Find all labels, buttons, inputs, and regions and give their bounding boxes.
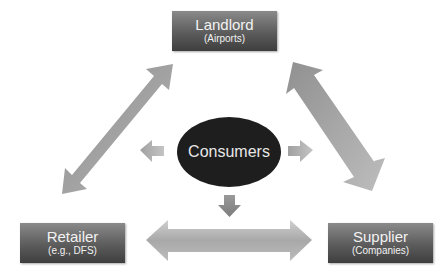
retailer-supplier-arrow [146, 220, 312, 261]
landlord-node: Landlord (Airports) [172, 11, 277, 51]
consumers-node: Consumers [177, 117, 281, 187]
consumers-title: Consumers [188, 143, 270, 161]
consumers-right-arrow [288, 140, 313, 162]
retailer-title: Retailer [47, 229, 99, 245]
supplier-subtitle: (Companies) [352, 245, 409, 257]
supplier-title: Supplier [353, 229, 408, 245]
consumers-left-arrow [140, 140, 164, 162]
landlord-supplier-arrow [286, 62, 385, 191]
landlord-title: Landlord [195, 17, 253, 33]
consumers-down-arrow [218, 195, 241, 217]
retailer-subtitle: (e.g., DFS) [48, 245, 97, 257]
supplier-node: Supplier (Companies) [328, 223, 433, 263]
landlord-subtitle: (Airports) [204, 33, 245, 45]
retailer-node: Retailer (e.g., DFS) [20, 223, 125, 263]
landlord-retailer-arrow [62, 64, 173, 194]
